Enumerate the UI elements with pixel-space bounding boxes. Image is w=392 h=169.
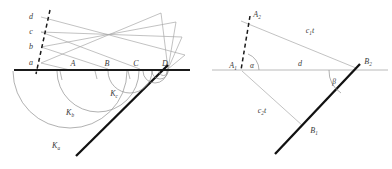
label-arc-Kc: Kc: [109, 89, 118, 99]
label-wavefront-c: c: [29, 27, 33, 36]
label-point-C: C: [133, 59, 139, 68]
refracted-boundary-line: [76, 65, 168, 156]
label-point-B: B: [105, 59, 110, 68]
label-point-B1: B1: [310, 126, 318, 136]
label-arc-Ka: Ka: [51, 141, 60, 151]
label-segment-d: d: [298, 59, 303, 68]
label-angle-alpha: α: [250, 61, 255, 70]
tick-1: [60, 71, 62, 80]
thick-boundary-B2-B1: [275, 64, 360, 154]
construction-tick-group: [60, 71, 130, 80]
label-segment-c1t: c1t: [306, 26, 315, 36]
left-panel: a b c d A B C D Ka Kb Kc: [13, 10, 190, 156]
right-panel: A1 A2 B1 B2 c1t c2t d α β: [212, 10, 388, 154]
ray-segment-d-far: [168, 55, 185, 69]
ray-A1-to-B1: [242, 71, 303, 126]
figure-canvas: a b c d A B C D Ka Kb Kc: [0, 0, 392, 169]
label-point-A: A: [70, 59, 76, 68]
label-wavefront-a: a: [29, 58, 33, 67]
label-point-B2: B2: [364, 57, 372, 67]
tick-3: [128, 71, 130, 79]
ray-segment-b-far: [168, 22, 176, 69]
incident-ray-a: [41, 13, 161, 63]
incident-ray-c: [41, 32, 182, 37]
tick-2: [95, 71, 97, 79]
incident-ray-group: [41, 13, 185, 63]
label-wavefront-b: b: [29, 42, 33, 51]
ray-segment-c-far: [168, 37, 182, 69]
label-point-A1: A1: [228, 61, 237, 71]
label-point-A2: A2: [252, 10, 261, 20]
label-segment-c2t: c2t: [258, 106, 267, 116]
label-arc-Kb: Kb: [65, 108, 74, 118]
figure-root: a b c d A B C D Ka Kb Kc: [0, 0, 392, 169]
wavefront-dashed-A1A2: [241, 16, 250, 70]
label-point-D: D: [161, 59, 168, 68]
label-angle-beta: β: [331, 77, 336, 86]
label-wavefront-d: d: [29, 12, 34, 21]
